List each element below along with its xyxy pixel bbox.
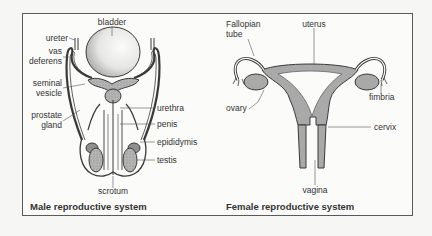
label-scrotum: scrotum bbox=[98, 186, 128, 196]
label-epididymis: epididymis bbox=[157, 137, 197, 147]
label-prostate-gland-line1: prostate bbox=[22, 110, 62, 120]
label-seminal-vesicle-line2: vesicle bbox=[22, 88, 62, 98]
male-diagram-title: Male reproductive system bbox=[30, 201, 147, 212]
label-cervix: cervix bbox=[374, 122, 396, 132]
label-vagina: vagina bbox=[302, 185, 327, 195]
label-uterus: uterus bbox=[302, 19, 326, 29]
label-fimbria: fimbria bbox=[369, 92, 395, 102]
bladder-shape bbox=[86, 27, 140, 77]
label-fallopian-tube-line1: Fallopian bbox=[226, 19, 261, 29]
label-seminal-vesicle-line1: seminal bbox=[22, 78, 62, 88]
male-anatomy bbox=[67, 27, 160, 176]
female-anatomy bbox=[233, 58, 387, 168]
label-penis: penis bbox=[157, 119, 177, 129]
label-testis: testis bbox=[157, 155, 177, 165]
label-bladder: bladder bbox=[98, 17, 126, 27]
label-ureter: ureter bbox=[38, 33, 68, 43]
label-ovary: ovary bbox=[226, 103, 247, 113]
label-vas-deferens-line1: vas bbox=[22, 46, 62, 56]
label-vas-deferens-line2: deferens bbox=[22, 56, 62, 66]
label-fallopian-tube-line2: tube bbox=[226, 29, 243, 39]
label-prostate-gland-line2: gland bbox=[22, 120, 62, 130]
label-urethra: urethra bbox=[157, 103, 184, 113]
female-diagram-title: Female reproductive system bbox=[226, 201, 354, 212]
